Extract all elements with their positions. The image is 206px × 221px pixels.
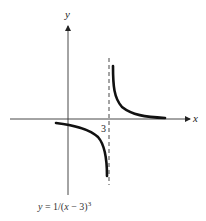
x-axis-label: x [193, 113, 198, 124]
graph-canvas [0, 0, 206, 221]
tick-label-3: 3 [101, 124, 106, 134]
curve-right-branch [113, 66, 165, 118]
caption-rest: − 3) [69, 201, 88, 212]
y-axis-label: y [65, 9, 70, 20]
curve-left-branch [56, 123, 107, 176]
caption-exponent: 3 [88, 200, 92, 208]
function-caption: y = 1/(x − 3)3 [38, 200, 91, 212]
caption-eq: = 1/( [42, 201, 64, 212]
